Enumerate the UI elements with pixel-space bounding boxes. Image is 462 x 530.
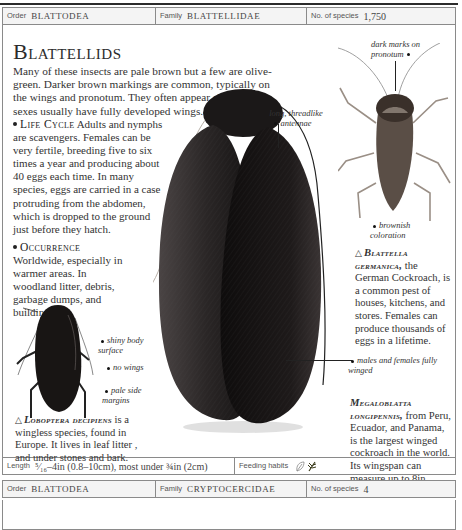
species-cell: No. of species 1,750	[307, 8, 455, 24]
annotation-pale-margins: pale side margins	[102, 386, 157, 405]
species-name: Megaloblatta longipennis,	[350, 397, 412, 421]
annotation-dot	[351, 360, 354, 363]
species-label: No. of species	[311, 11, 359, 20]
loboptera-illustration	[13, 300, 98, 420]
species-name: Blattella germanica,	[355, 247, 408, 271]
species-count: 1,750	[364, 11, 387, 22]
order-value: Blattodea	[31, 11, 89, 21]
annotation-males-females: males and females fully winged	[348, 356, 443, 375]
order-cell: Order Blattodea	[3, 8, 156, 24]
annotation-dot	[101, 340, 104, 343]
next-species-label: No. of species	[311, 484, 359, 493]
annotation-dot	[274, 122, 277, 125]
top-rule	[0, 3, 458, 5]
annotation-dot	[107, 367, 110, 370]
annotation-brownish: brownish coloration	[370, 221, 440, 240]
family-header: Order Blattodea Family Blattellidae No. …	[2, 7, 456, 25]
next-family-label: Family	[160, 484, 182, 493]
length-value: ⁵⁄₁₆–4in (0.8–10cm), most under ¾in (2cm…	[35, 461, 208, 472]
annotation-shiny: shiny body surface	[98, 336, 158, 355]
plant-sprig-icon	[307, 461, 317, 472]
bullet-icon	[13, 245, 17, 249]
annotation-antennae: long, threadlike antennae	[261, 109, 331, 128]
loboptera-caption: △Loboptera decipiens is a wingless speci…	[15, 414, 145, 464]
triangle-icon: △	[15, 415, 22, 425]
triangle-icon: △	[355, 248, 362, 258]
order-label: Order	[7, 11, 26, 20]
leader-line	[286, 360, 352, 361]
next-order-value: Blattodea	[31, 484, 89, 494]
next-species-cell: No. of species 4	[307, 481, 455, 497]
life-cycle-heading: Life Cycle	[20, 118, 74, 130]
blattella-caption: △Blattella germanica, the German Cockroa…	[355, 247, 453, 348]
next-order-label: Order	[7, 484, 26, 493]
annotation-dot	[373, 225, 376, 228]
page-title: Blattellids	[13, 39, 122, 65]
annotation-dot	[407, 53, 410, 56]
next-family-header: Order Blattodea Family Cryptocercidae No…	[2, 480, 456, 498]
species-name: Loboptera decipiens	[24, 414, 112, 425]
entry-footer: Length ⁵⁄₁₆–4in (0.8–10cm), most under ¾…	[2, 458, 456, 475]
next-order-cell: Order Blattodea	[3, 481, 156, 497]
entry-panel: Blattellids Many of these insects are pa…	[2, 24, 456, 458]
length-cell: Length ⁵⁄₁₆–4in (0.8–10cm), most under ¾…	[3, 458, 235, 474]
life-cycle-text: Adults and nymphs are scavengers. Female…	[13, 118, 162, 235]
occurrence-heading: Occurrence	[20, 241, 80, 253]
next-species-count: 4	[364, 484, 369, 495]
leader-line	[395, 61, 396, 91]
family-label: Family	[160, 11, 182, 20]
bullet-icon	[13, 122, 17, 126]
family-value: Blattellidae	[187, 11, 260, 21]
annotation-dot	[105, 390, 108, 393]
leaf-outline-icon	[295, 461, 305, 472]
next-entry-panel	[2, 500, 456, 530]
annotation-no-wings: no wings	[104, 363, 164, 373]
annotation-dark-marks: dark marks on pronotum	[371, 40, 441, 59]
length-label: Length	[7, 461, 30, 470]
family-cell: Family Blattellidae	[156, 8, 307, 24]
feeding-cell: Feeding habits	[235, 458, 455, 474]
next-family-cell: Family Cryptocercidae	[156, 481, 307, 497]
megaloblatta-illustration	[153, 85, 333, 445]
feeding-icons	[295, 461, 317, 472]
next-family-value: Cryptocercidae	[187, 484, 275, 494]
feeding-label: Feeding habits	[239, 461, 288, 470]
life-cycle-section: Life Cycle Adults and nymphs are scaveng…	[13, 118, 163, 236]
leader-line	[278, 124, 279, 148]
